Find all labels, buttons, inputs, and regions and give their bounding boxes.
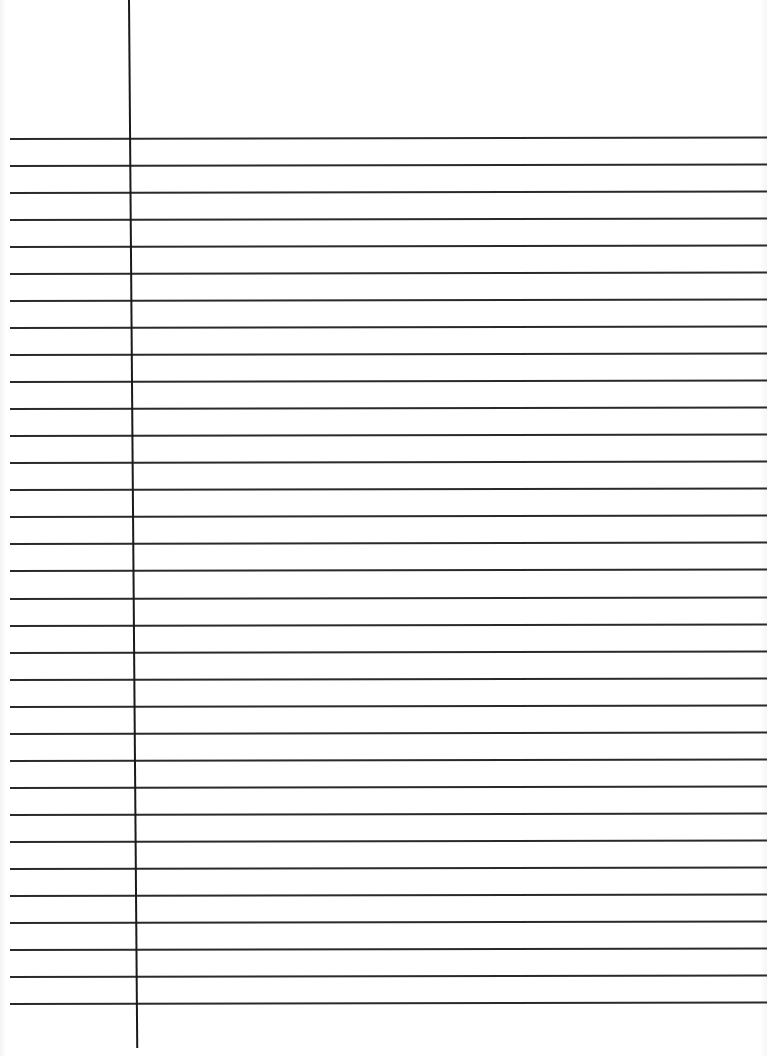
ruled-line	[10, 407, 767, 410]
ruled-line	[10, 380, 767, 383]
ruled-line	[10, 326, 767, 329]
ruled-line	[10, 299, 767, 302]
ruled-line	[10, 515, 767, 518]
ruled-line	[10, 785, 767, 788]
ruled-line	[10, 974, 767, 977]
ruled-line	[10, 245, 767, 248]
ruled-line	[10, 461, 767, 464]
ruled-line	[10, 893, 767, 896]
ruled-line	[10, 704, 767, 707]
ruled-line	[10, 866, 767, 869]
ruled-line	[10, 217, 767, 220]
ruled-line	[10, 650, 767, 653]
ruled-line	[10, 272, 767, 275]
ruled-line	[10, 947, 767, 950]
ruled-line	[10, 839, 767, 842]
ruled-line	[10, 488, 767, 491]
ruled-line	[10, 1001, 767, 1004]
ruled-line	[10, 136, 767, 139]
ruled-line	[10, 353, 767, 356]
ruled-line	[10, 920, 767, 923]
ruled-line	[10, 542, 767, 545]
ruled-line	[10, 163, 767, 166]
ruled-line	[10, 731, 767, 734]
ruled-line	[10, 677, 767, 680]
ruled-line	[10, 596, 767, 599]
ruled-line	[10, 623, 767, 626]
ruled-line	[10, 758, 767, 761]
ruled-line	[10, 190, 767, 193]
margin-line	[128, 0, 138, 1048]
ruled-line	[10, 434, 767, 437]
lined-paper-sheet	[0, 0, 767, 1056]
ruled-line	[10, 569, 767, 572]
ruled-line	[10, 812, 767, 815]
